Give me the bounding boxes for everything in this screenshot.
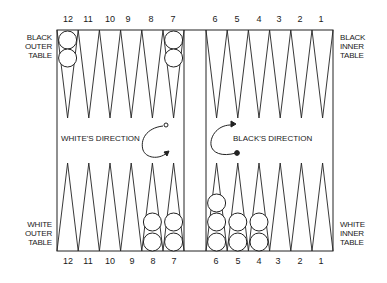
point-number: 2 (292, 256, 308, 266)
point-number: 6 (207, 14, 223, 24)
point-number: 1 (313, 256, 329, 266)
label-line: BLACK (340, 33, 365, 42)
point-number: 8 (145, 256, 161, 266)
label-line: INNER (340, 42, 365, 51)
checker[interactable] (250, 233, 268, 251)
point-number: 3 (270, 256, 286, 266)
point-number: 6 (208, 256, 224, 266)
point-number: 9 (124, 256, 140, 266)
point-number: 1 (313, 14, 329, 24)
point-number: 12 (60, 256, 76, 266)
point-number: 5 (229, 14, 245, 24)
point-number: 10 (102, 256, 118, 266)
point-number: 11 (80, 14, 96, 24)
point-number: 11 (80, 256, 96, 266)
checker[interactable] (59, 31, 77, 49)
point-number: 10 (102, 14, 118, 24)
label-line: WHITE (340, 220, 365, 229)
label-line: TABLE (340, 51, 365, 60)
point-number: 7 (165, 14, 181, 24)
point-number: 3 (271, 14, 287, 24)
checker[interactable] (143, 213, 161, 231)
checker[interactable] (165, 233, 183, 251)
checker[interactable] (208, 194, 226, 212)
label-line: INNER (340, 229, 365, 238)
point-number: 8 (143, 14, 159, 24)
checker[interactable] (229, 233, 247, 251)
checker[interactable] (143, 233, 161, 251)
checker[interactable] (165, 213, 183, 231)
checker[interactable] (165, 31, 183, 49)
black-inner-table-label: BLACK INNER TABLE (340, 33, 365, 60)
checker[interactable] (208, 233, 226, 251)
white-outer-table-label: WHITE OUTER TABLE (20, 220, 52, 247)
white-direction-arrow-icon (142, 123, 169, 157)
label-line: TABLE (20, 51, 52, 60)
point-number: 5 (230, 256, 246, 266)
label-line: OUTER (20, 229, 52, 238)
bottom-points-left (57, 163, 184, 251)
label-line: TABLE (20, 238, 52, 247)
checker[interactable] (165, 49, 183, 67)
white-inner-table-label: WHITE INNER TABLE (340, 220, 365, 247)
checker[interactable] (208, 213, 226, 231)
label-line: WHITE (20, 220, 52, 229)
label-line: BLACK (20, 33, 52, 42)
point-number: 2 (292, 14, 308, 24)
label-line: OUTER (20, 42, 52, 51)
checker[interactable] (59, 49, 77, 67)
checker[interactable] (250, 213, 268, 231)
top-points-right (206, 30, 333, 118)
point-number: 4 (251, 256, 267, 266)
point-number: 7 (166, 256, 182, 266)
label-line: TABLE (340, 238, 365, 247)
black-direction-label: BLACK'S DIRECTION (233, 134, 312, 143)
checker[interactable] (229, 213, 247, 231)
white-direction-label: WHITE'S DIRECTION (61, 134, 140, 143)
point-number: 12 (60, 14, 76, 24)
backgammon-board (0, 0, 387, 283)
point-number: 4 (251, 14, 267, 24)
point-number: 9 (120, 14, 136, 24)
black-outer-table-label: BLACK OUTER TABLE (20, 33, 52, 60)
